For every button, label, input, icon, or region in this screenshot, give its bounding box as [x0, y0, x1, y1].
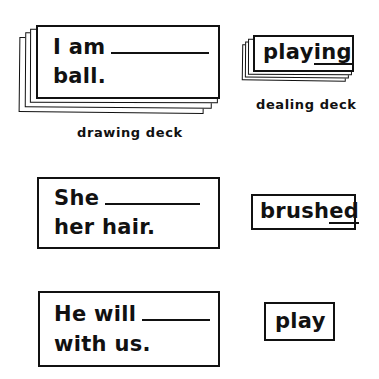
drawing-deck-top-card[interactable]: I am ball.: [36, 25, 220, 99]
word-card-brushed[interactable]: brushed: [251, 194, 356, 230]
sentence-line-1: He will: [54, 300, 210, 328]
card-word: playing: [263, 40, 352, 65]
sentence-line-2: with us.: [54, 330, 151, 358]
sentence-line-1: She: [54, 184, 200, 212]
sentence-card-he-will[interactable]: He will with us.: [38, 291, 220, 367]
suffix-underline: ed: [329, 200, 359, 224]
suffix-underline: ing: [314, 41, 352, 65]
card-word: play: [275, 309, 326, 333]
word-card-play[interactable]: play: [264, 302, 335, 341]
drawing-deck-label: drawing deck: [77, 125, 183, 140]
card-word: brushed: [260, 199, 359, 224]
sentence-line-1: I am: [53, 33, 209, 61]
sentence-line-2: her hair.: [54, 213, 155, 241]
answer-blank: [111, 37, 209, 54]
sentence-line-2: ball.: [53, 62, 106, 90]
answer-blank: [142, 304, 210, 321]
dealing-deck-top-card[interactable]: playing: [253, 35, 354, 72]
sentence-card-she[interactable]: She her hair.: [37, 177, 220, 249]
dealing-deck-label: dealing deck: [256, 97, 357, 112]
answer-blank: [105, 188, 200, 205]
